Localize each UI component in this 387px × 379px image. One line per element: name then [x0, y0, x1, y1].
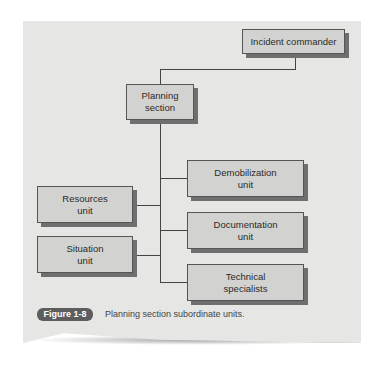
- node-incident-commander: Incident commander: [242, 29, 345, 54]
- node-label-line1: Situation: [67, 243, 104, 255]
- connector-trunk: [160, 119, 161, 282]
- node-technical-specialists: Technical specialists: [187, 264, 304, 301]
- node-planning-section: Planning section: [126, 84, 194, 120]
- node-label-line2: specialists: [224, 283, 268, 295]
- connector-technical: [160, 282, 187, 283]
- node-demobilization-unit: Demobilization unit: [187, 160, 304, 197]
- connector-resources: [132, 205, 160, 206]
- node-label-line2: section: [142, 102, 179, 114]
- connector-ic-down: [295, 53, 296, 70]
- node-label-line1: Technical: [224, 271, 268, 283]
- connector-to-planning: [160, 69, 161, 84]
- connector-ic-horizontal: [160, 69, 296, 70]
- connector-documentation: [160, 230, 187, 231]
- node-label-line2: unit: [214, 179, 276, 191]
- node-label-line1: Resources: [62, 193, 107, 205]
- connector-situation: [132, 255, 160, 256]
- node-label-line1: Planning: [142, 90, 179, 102]
- node-label-line1: Demobilization: [214, 167, 276, 179]
- node-label-line2: unit: [62, 205, 107, 217]
- node-label-line2: unit: [67, 255, 104, 267]
- connector-demobilization: [160, 178, 187, 179]
- node-situation-unit: Situation unit: [37, 236, 133, 273]
- node-resources-unit: Resources unit: [37, 186, 133, 223]
- node-label-line2: unit: [214, 231, 278, 243]
- node-label-line1: Documentation: [214, 219, 278, 231]
- figure-caption: Planning section subordinate units.: [105, 308, 245, 321]
- node-documentation-unit: Documentation unit: [187, 212, 304, 249]
- node-label: Incident commander: [250, 36, 336, 48]
- figure-number-badge: Figure 1-8: [37, 308, 93, 321]
